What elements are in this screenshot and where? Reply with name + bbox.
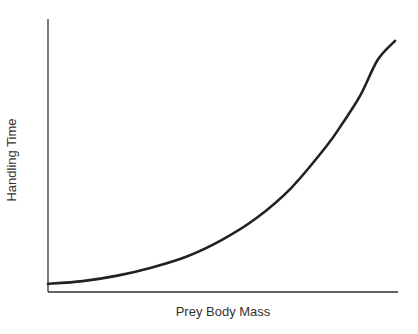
data-curve <box>48 41 395 284</box>
x-axis-label: Prey Body Mass <box>48 304 398 320</box>
y-axis-label: Handling Time <box>4 100 20 220</box>
chart-canvas <box>0 0 418 334</box>
